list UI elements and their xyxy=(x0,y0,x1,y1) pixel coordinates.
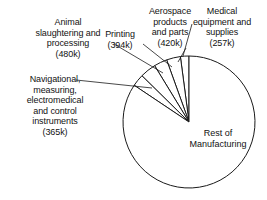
pie-slices xyxy=(123,56,255,188)
pie-chart: Animal slaughtering and processing (480k… xyxy=(0,0,267,200)
slice-label-navigational: Navigational, measuring, electromedical … xyxy=(8,74,102,137)
slice-label-printing: Printing (394k) xyxy=(96,29,144,50)
slice-label-rest-of-manufacturing: Rest of Manufacturing xyxy=(178,128,258,150)
slice-label-medical-equipment: Medical equipment and supplies (257k) xyxy=(178,6,266,48)
